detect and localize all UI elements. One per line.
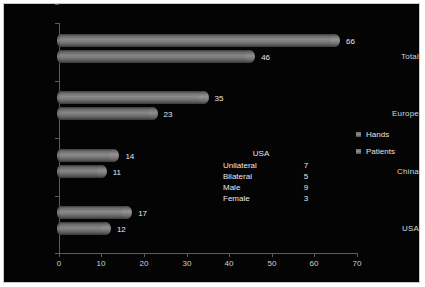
bar-end-cap <box>245 50 255 63</box>
y-axis-tick <box>55 138 59 139</box>
bar-value-label: 23 <box>164 110 173 119</box>
usa-table-title: USA <box>223 149 315 158</box>
bar-end-cap <box>330 34 340 47</box>
bar-value-label: 66 <box>346 37 355 46</box>
x-axis-label: 20 <box>132 259 156 268</box>
plot-area: Total Europe China USA 0 10 20 30 40 50 … <box>4 4 419 282</box>
x-axis-label: 0 <box>47 259 71 268</box>
bar-value-label: 46 <box>261 53 270 62</box>
bar-china-hands[interactable] <box>60 149 119 162</box>
bar-value-label: 17 <box>138 209 147 218</box>
x-axis-label: 70 <box>345 259 369 268</box>
x-axis-line <box>59 253 357 254</box>
bar-end-cap <box>101 222 111 235</box>
bar-end-cap <box>199 91 209 104</box>
usa-table-value: 5 <box>297 171 315 182</box>
usa-table-row: Unilateral 7 <box>223 160 315 171</box>
x-axis-label: 50 <box>260 259 284 268</box>
bar-end-cap <box>122 206 132 219</box>
x-axis-tick <box>101 253 102 257</box>
bar-europe-patients[interactable] <box>60 107 158 120</box>
x-axis-label: 60 <box>302 259 326 268</box>
usa-table-value: 9 <box>297 182 315 193</box>
x-axis-tick <box>314 253 315 257</box>
bar-total-patients[interactable] <box>60 50 255 63</box>
usa-inset-table: USA Unilateral 7 Bilateral 5 Male 9 Fema… <box>223 149 315 204</box>
bar-body <box>60 149 114 162</box>
x-axis-label: 30 <box>175 259 199 268</box>
x-axis-tick <box>357 253 358 257</box>
legend-label: Patients <box>366 147 395 156</box>
y-axis-tick <box>55 23 59 24</box>
bar-end-cap <box>148 107 158 120</box>
bar-value-label: 12 <box>117 225 126 234</box>
y-axis-tick <box>55 81 59 82</box>
usa-table-key: Unilateral <box>223 160 257 171</box>
usa-table-key: Bilateral <box>223 171 252 182</box>
usa-table-row: Bilateral 5 <box>223 171 315 182</box>
x-axis-tick <box>59 253 60 257</box>
legend-swatch-icon <box>356 132 361 137</box>
bar-body <box>60 165 102 178</box>
bar-body <box>60 91 204 104</box>
bar-body <box>60 206 127 219</box>
usa-table-row: Female 3 <box>223 193 315 204</box>
y-axis-category-label: China <box>371 167 419 176</box>
x-axis-tick <box>229 253 230 257</box>
bar-body <box>60 222 106 235</box>
x-axis-tick <box>187 253 188 257</box>
x-axis-tick <box>272 253 273 257</box>
y-axis-tick <box>55 196 59 197</box>
usa-table-value: 7 <box>297 160 315 171</box>
bar-value-label: 14 <box>125 152 134 161</box>
usa-table-value: 3 <box>297 193 315 204</box>
y-axis-category-label: Europe <box>371 109 419 118</box>
y-axis-category-label: USA <box>371 224 419 233</box>
usa-table-row: Male 9 <box>223 182 315 193</box>
usa-table-key: Female <box>223 193 250 204</box>
bar-body <box>60 107 153 120</box>
usa-table-key: Male <box>223 182 240 193</box>
y-axis-category-label: Total <box>371 52 419 61</box>
x-axis-label: 40 <box>217 259 241 268</box>
bar-value-label: 11 <box>113 168 121 177</box>
bar-value-label: 35 <box>215 94 224 103</box>
bar-china-patients[interactable] <box>60 165 107 178</box>
legend-item-hands[interactable]: Hands <box>356 130 418 139</box>
y-axis-tick <box>55 4 59 5</box>
bar-body <box>60 34 335 47</box>
x-axis-tick <box>144 253 145 257</box>
bar-end-cap <box>97 165 107 178</box>
bar-usa-hands[interactable] <box>60 206 132 219</box>
x-axis-label: 10 <box>89 259 113 268</box>
legend-item-patients[interactable]: Patients <box>356 147 418 156</box>
bar-europe-hands[interactable] <box>60 91 209 104</box>
legend-label: Hands <box>366 130 389 139</box>
bar-usa-patients[interactable] <box>60 222 111 235</box>
chart-legend: Hands Patients <box>356 130 418 164</box>
bar-end-cap <box>109 149 119 162</box>
bar-body <box>60 50 250 63</box>
legend-swatch-icon <box>356 149 361 154</box>
bar-total-hands[interactable] <box>60 34 340 47</box>
chart-container: Total Europe China USA 0 10 20 30 40 50 … <box>3 3 420 283</box>
